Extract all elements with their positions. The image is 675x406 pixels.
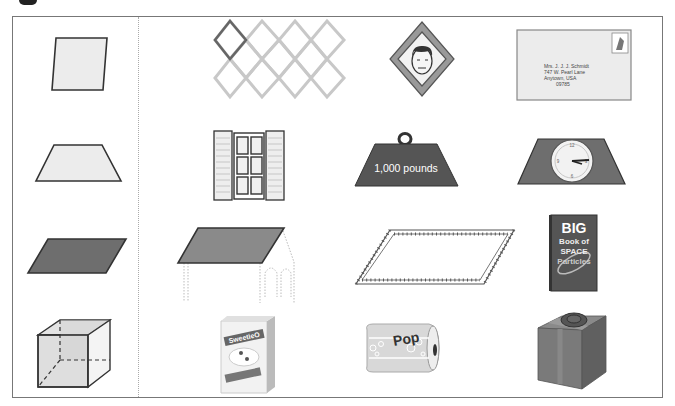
reference-trapezoid[interactable]	[34, 144, 124, 184]
diamond-road-sign[interactable]	[389, 21, 455, 97]
svg-text:12: 12	[569, 143, 575, 148]
chain-link-fence[interactable]	[213, 20, 353, 104]
house-roof[interactable]	[177, 227, 295, 305]
corner-mark	[19, 0, 37, 5]
gift-box[interactable]	[536, 310, 608, 390]
reference-rhombus[interactable]	[50, 37, 110, 93]
address-line-4: 09785	[556, 81, 570, 87]
ruler-parallelogram[interactable]	[354, 228, 516, 286]
reference-parallelogram[interactable]	[27, 238, 129, 276]
book-title-line-3: SPACE	[561, 247, 589, 256]
highlighted-rhombus	[215, 21, 246, 59]
trapezoid-clock[interactable]: 12369	[516, 138, 628, 186]
soda-can[interactable]: Pop	[361, 322, 441, 374]
space-book[interactable]: BIG Book of SPACE Particles	[548, 213, 598, 293]
window-with-shutters[interactable]	[213, 130, 285, 202]
weight-label: 1,000 pounds	[374, 162, 438, 174]
column-divider	[138, 17, 139, 397]
envelope[interactable]: Mrs. J. J. J. Schmidt 747 W. Pearl Lane …	[516, 29, 632, 101]
cereal-box[interactable]: SweetieO	[219, 315, 279, 395]
book-title-line-1: BIG	[562, 220, 587, 236]
book-title-line-2: Book of	[559, 237, 589, 246]
reference-cube[interactable]	[36, 318, 114, 390]
book-title-line-4: Particles	[557, 257, 591, 266]
weight[interactable]: 1,000 pounds	[353, 132, 461, 188]
